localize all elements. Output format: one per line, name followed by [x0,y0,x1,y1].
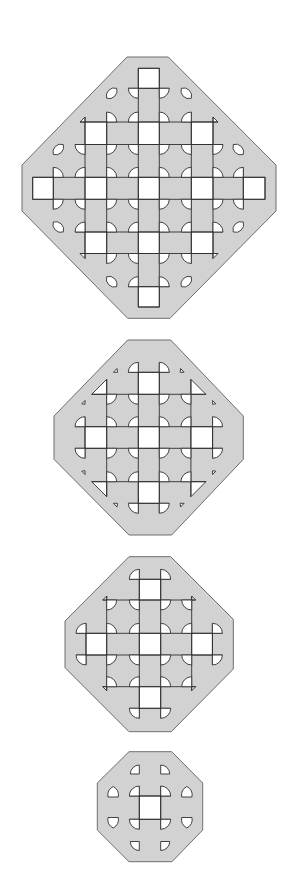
white-square-cutout [191,232,213,254]
white-square-cutout [85,122,107,145]
white-square-cutout [138,287,159,307]
white-square-cutout [243,177,265,199]
white-square-cutout [192,633,213,655]
octagon-tile-smallest [97,752,202,862]
white-square-cutout [138,177,159,199]
white-square-cutout [191,427,213,449]
white-square-cutout [85,427,107,449]
white-square-cutout [138,482,159,504]
white-square-cutout [138,122,159,145]
white-square-cutout [138,427,159,449]
white-square-cutout [139,579,160,600]
white-square-cutout [138,232,159,254]
pattern-canvas [0,0,283,893]
white-square-cutout [138,68,159,88]
white-square-cutout [86,633,107,655]
white-square-cutout [85,177,107,199]
white-square-cutout [191,122,213,145]
white-square-cutout [85,232,107,254]
white-square-cutout [139,687,160,709]
white-square-cutout [139,796,160,819]
white-square-cutout [138,372,159,394]
white-square-cutout [191,177,213,199]
white-square-cutout [139,633,160,655]
white-square-cutout [33,177,54,199]
